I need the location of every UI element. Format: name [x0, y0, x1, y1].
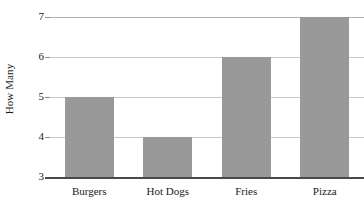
bar	[300, 17, 349, 177]
y-axis-title: How Many	[0, 0, 18, 178]
y-axis-title-text: How Many	[3, 64, 15, 115]
x-axis-line	[45, 177, 364, 179]
x-axis-tick-label: Fries	[207, 183, 286, 199]
y-axis-tick-labels: 34567	[20, 0, 44, 190]
x-axis-tick-label: Burgers	[50, 183, 129, 199]
x-axis-tick-labels: BurgersHot DogsFriesPizza	[0, 183, 364, 203]
plot-area	[50, 17, 364, 177]
bar	[65, 97, 114, 177]
x-axis-tick-label: Hot Dogs	[129, 183, 208, 199]
bar	[143, 137, 192, 177]
y-axis-tick-label: 3	[20, 171, 44, 182]
y-axis-tick-label: 4	[20, 131, 44, 142]
bar-chart: How Many 34567 BurgersHot DogsFriesPizza	[0, 0, 364, 210]
bar	[222, 57, 271, 177]
x-axis-tick-label: Pizza	[286, 183, 364, 199]
y-axis-tick-label: 5	[20, 91, 44, 102]
y-axis-tick-label: 7	[20, 11, 44, 22]
y-axis-tick-label: 6	[20, 51, 44, 62]
